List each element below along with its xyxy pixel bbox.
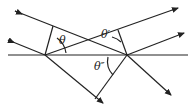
incident-arrow-lower [8,40,14,43]
wavefront-left [45,26,53,55]
diagram-canvas: θ θ′ θ″ [0,0,188,111]
reflected-ray-lower [127,33,184,55]
incident-ray-upper [15,11,127,55]
label-theta-double-prime: θ″ [94,60,106,73]
transmitted-ray-right [127,55,171,95]
label-theta-prime: θ′ [101,28,111,41]
incident-arrow-upper [15,11,22,14]
angle-arc-theta-double-prime [108,57,113,75]
wavefront-right [118,30,127,55]
label-theta: θ [59,34,66,47]
angle-arc-theta-prime [112,37,121,42]
